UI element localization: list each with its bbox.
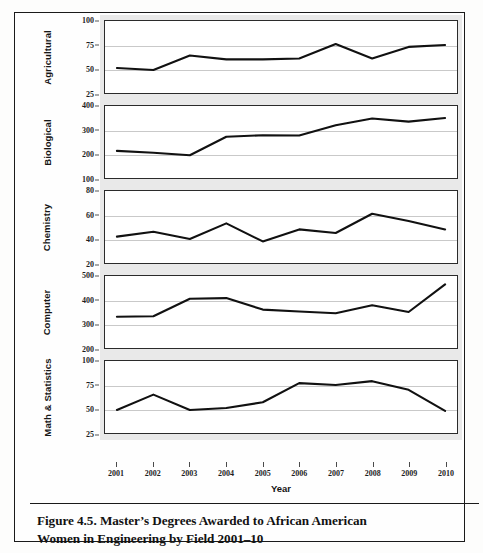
plot-inner: [105, 106, 457, 178]
y-tick-label: 200: [82, 345, 94, 354]
y-tick-label: 100: [82, 175, 94, 184]
y-tick-label: 100: [82, 356, 94, 365]
x-tick-mark: [409, 462, 410, 467]
y-tick-label: 400: [82, 101, 94, 110]
y-tick-label: 25: [86, 430, 94, 439]
y-tick-label: 20: [86, 260, 94, 269]
panel-label-5: Math & Statistics: [34, 355, 60, 440]
figure-page: Agricultural255075100Biological100200300…: [0, 0, 483, 553]
x-tick-label: 2008: [365, 469, 381, 478]
y-tick-label: 75: [86, 40, 94, 49]
caption-divider: [30, 503, 479, 504]
x-tick-label: 2007: [328, 469, 344, 478]
x-tick-mark: [226, 462, 227, 467]
y-tick-label: 200: [82, 150, 94, 159]
y-axis-5: 255075100: [60, 355, 100, 440]
panel-computer: Computer200300400500: [34, 270, 462, 355]
x-tick-mark: [263, 462, 264, 467]
y-tick-label: 100: [82, 16, 94, 25]
x-tick-mark: [446, 462, 447, 467]
panel-stack: Agricultural255075100Biological100200300…: [34, 15, 462, 462]
plot-inner: [105, 276, 457, 348]
plot-inner: [105, 191, 457, 263]
y-tick-label: 300: [82, 125, 94, 134]
x-tick-label: 2001: [108, 469, 124, 478]
x-tick-label: 2009: [401, 469, 417, 478]
panel-chemistry: Chemistry20406080: [34, 185, 462, 270]
y-tick-label: 25: [86, 90, 94, 99]
x-axis: Year 20012002200320042005200620072008200…: [104, 462, 458, 492]
x-tick-mark: [336, 462, 337, 467]
panel-label-text: Agricultural: [42, 30, 53, 85]
x-tick-mark: [153, 462, 154, 467]
series-line-chemistry: [105, 191, 457, 263]
panel-label-2: Biological: [34, 100, 60, 185]
y-tick-label: 500: [82, 271, 94, 280]
y-tick-label: 400: [82, 295, 94, 304]
y-axis-1: 255075100: [60, 15, 100, 100]
panel-label-text: Chemistry: [42, 204, 53, 251]
figure-caption: Figure 4.5. Master’s Degrees Awarded to …: [37, 512, 477, 548]
x-tick-mark: [373, 462, 374, 467]
x-tick-label: 2004: [218, 469, 234, 478]
plot-box-2: [104, 105, 458, 179]
plot-inner: [105, 21, 457, 93]
x-tick-label: 2006: [291, 469, 307, 478]
panel-agricultural: Agricultural255075100: [34, 15, 462, 100]
panel-label-3: Chemistry: [34, 185, 60, 270]
x-tick-label: 2002: [145, 469, 161, 478]
y-axis-3: 20406080: [60, 185, 100, 270]
chart-area: Agricultural255075100Biological100200300…: [34, 15, 462, 475]
panel-label-text: Math & Statistics: [42, 358, 53, 436]
y-tick-label: 50: [86, 405, 94, 414]
x-tick-mark: [189, 462, 190, 467]
caption-line-1: Figure 4.5. Master’s Degrees Awarded to …: [37, 512, 477, 530]
series-line-agricultural: [105, 21, 457, 93]
series-line-math-statistics: [105, 361, 457, 433]
x-tick-label: 2010: [438, 469, 454, 478]
y-tick-label: 60: [86, 210, 94, 219]
y-tick-label: 80: [86, 186, 94, 195]
plot-box-5: [104, 360, 458, 434]
caption-line-2: Women in Engineering by Field 2001–10: [37, 530, 477, 548]
y-tick-label: 40: [86, 235, 94, 244]
plot-inner: [105, 361, 457, 433]
plot-box-3: [104, 190, 458, 264]
x-axis-title: Year: [104, 483, 458, 494]
y-axis-4: 200300400500: [60, 270, 100, 355]
y-tick-label: 300: [82, 320, 94, 329]
panel-math-statistics: Math & Statistics255075100: [34, 355, 462, 440]
panel-label-text: Computer: [42, 290, 53, 336]
figure-frame: Agricultural255075100Biological100200300…: [14, 12, 465, 542]
x-tick-label: 2003: [181, 469, 197, 478]
series-line-computer: [105, 276, 457, 348]
panel-biological: Biological100200300400: [34, 100, 462, 185]
x-tick-mark: [299, 462, 300, 467]
y-tick-label: 50: [86, 65, 94, 74]
panel-label-4: Computer: [34, 270, 60, 355]
series-line-biological: [105, 106, 457, 178]
plot-box-4: [104, 275, 458, 349]
x-tick-label: 2005: [255, 469, 271, 478]
plot-box-1: [104, 20, 458, 94]
panel-label-1: Agricultural: [34, 15, 60, 100]
panel-label-text: Biological: [42, 119, 53, 165]
y-tick-label: 75: [86, 380, 94, 389]
x-tick-mark: [116, 462, 117, 467]
y-axis-2: 100200300400: [60, 100, 100, 185]
